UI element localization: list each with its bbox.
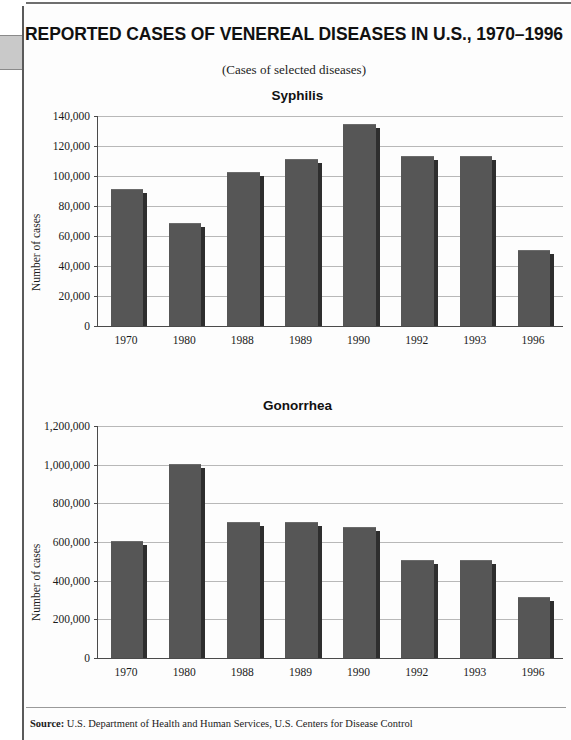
- y-tick-mark: [94, 266, 98, 267]
- bar-shadow: [550, 254, 554, 326]
- chart-title: Gonorrhea: [24, 398, 571, 413]
- bar: [111, 541, 144, 658]
- page-top-rule: [26, 2, 571, 4]
- bar: [518, 597, 551, 658]
- bar-shadow: [260, 526, 264, 658]
- gridline: [98, 465, 563, 466]
- x-axis-tick-label: 1996: [504, 334, 562, 346]
- bar-shadow: [318, 526, 322, 658]
- y-tick-mark: [94, 326, 98, 327]
- y-axis-tick-label: 1,200,000: [24, 420, 90, 432]
- y-tick-mark: [94, 236, 98, 237]
- y-tick-mark: [94, 503, 98, 504]
- x-axis-tick-label: 1970: [97, 666, 155, 678]
- bar-shadow: [434, 160, 438, 327]
- bar-shadow: [492, 160, 496, 327]
- bar: [343, 527, 376, 659]
- bar-shadow: [492, 564, 496, 658]
- gridline: [98, 116, 563, 117]
- page-edge-tab: [0, 35, 22, 70]
- bar: [227, 522, 260, 658]
- x-axis-tick-label: 1992: [388, 334, 446, 346]
- page-subtitle: (Cases of selected diseases): [24, 62, 564, 78]
- x-axis-tick-label: 1989: [271, 334, 329, 346]
- source-text: U.S. Department of Health and Human Serv…: [67, 718, 413, 729]
- x-axis-tick-label: 1993: [446, 666, 504, 678]
- bar-shadow: [550, 601, 554, 658]
- bar-shadow: [143, 545, 147, 658]
- source-note: Source: U.S. Department of Health and Hu…: [30, 718, 560, 729]
- bar: [111, 189, 144, 327]
- bar: [169, 464, 202, 658]
- plot-area: [97, 116, 563, 327]
- footer-divider: [26, 707, 566, 708]
- bar: [169, 223, 202, 326]
- gridline: [98, 542, 563, 543]
- x-axis-tick-label: 1993: [446, 334, 504, 346]
- y-axis-tick-label: 60,000: [24, 230, 90, 242]
- y-tick-mark: [94, 206, 98, 207]
- chart-gonorrhea: GonorrheaNumber of cases0200,000400,0006…: [24, 398, 571, 698]
- y-axis-tick-label: 140,000: [24, 110, 90, 122]
- x-axis-tick-label: 1988: [213, 334, 271, 346]
- bar-shadow: [318, 163, 322, 327]
- y-tick-mark: [94, 296, 98, 297]
- y-tick-mark: [94, 581, 98, 582]
- bar: [460, 156, 493, 327]
- bar: [460, 560, 493, 658]
- y-tick-mark: [94, 465, 98, 466]
- bar: [343, 124, 376, 326]
- bar-shadow: [376, 531, 380, 659]
- y-tick-mark: [94, 542, 98, 543]
- bar-shadow: [143, 193, 147, 327]
- y-axis-tick-label: 200,000: [24, 613, 90, 625]
- bar: [401, 156, 434, 327]
- bar-shadow: [201, 468, 205, 658]
- bar: [518, 250, 551, 326]
- y-axis-title: Number of cases: [30, 214, 42, 291]
- chart-syphilis: SyphilisNumber of cases020,00040,00060,0…: [24, 88, 571, 366]
- y-tick-mark: [94, 426, 98, 427]
- plot-area: [97, 426, 563, 659]
- y-axis-tick-label: 1,000,000: [24, 459, 90, 471]
- bar: [227, 172, 260, 326]
- y-axis-tick-label: 120,000: [24, 140, 90, 152]
- y-tick-mark: [94, 658, 98, 659]
- bar-shadow: [376, 128, 380, 326]
- bar-shadow: [260, 176, 264, 326]
- x-axis-tick-label: 1989: [271, 666, 329, 678]
- x-axis-tick-label: 1990: [330, 666, 388, 678]
- y-tick-mark: [94, 176, 98, 177]
- x-axis-tick-label: 1990: [330, 334, 388, 346]
- chart-title: Syphilis: [24, 88, 571, 103]
- y-axis-tick-label: 400,000: [24, 575, 90, 587]
- y-axis-tick-label: 0: [24, 652, 90, 664]
- x-axis-tick-label: 1988: [213, 666, 271, 678]
- y-axis-tick-label: 100,000: [24, 170, 90, 182]
- bar: [285, 522, 318, 658]
- y-tick-mark: [94, 146, 98, 147]
- y-tick-mark: [94, 116, 98, 117]
- bar-shadow: [434, 564, 438, 658]
- x-axis-tick-label: 1980: [155, 666, 213, 678]
- bar-shadow: [201, 227, 205, 326]
- y-axis-tick-label: 80,000: [24, 200, 90, 212]
- page-title: REPORTED CASES OF VENEREAL DISEASES IN U…: [24, 24, 564, 45]
- y-axis-tick-label: 600,000: [24, 536, 90, 548]
- bar: [285, 159, 318, 327]
- y-axis-tick-label: 0: [24, 320, 90, 332]
- y-axis-tick-label: 800,000: [24, 497, 90, 509]
- x-axis-tick-label: 1970: [97, 334, 155, 346]
- x-axis-tick-label: 1980: [155, 334, 213, 346]
- source-label: Source:: [30, 718, 64, 729]
- x-axis-tick-label: 1996: [504, 666, 562, 678]
- x-axis-tick-label: 1992: [388, 666, 446, 678]
- bar: [401, 560, 434, 658]
- y-axis-tick-label: 40,000: [24, 260, 90, 272]
- gridline: [98, 146, 563, 147]
- y-axis-tick-label: 20,000: [24, 290, 90, 302]
- y-tick-mark: [94, 619, 98, 620]
- gridline: [98, 426, 563, 427]
- gridline: [98, 503, 563, 504]
